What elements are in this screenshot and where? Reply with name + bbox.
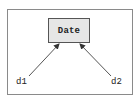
reference-label-d2: d2 <box>111 77 122 87</box>
date-object-label: Date <box>58 26 80 36</box>
reference-label-d1: d1 <box>16 77 27 87</box>
date-object-node: Date <box>48 18 90 43</box>
